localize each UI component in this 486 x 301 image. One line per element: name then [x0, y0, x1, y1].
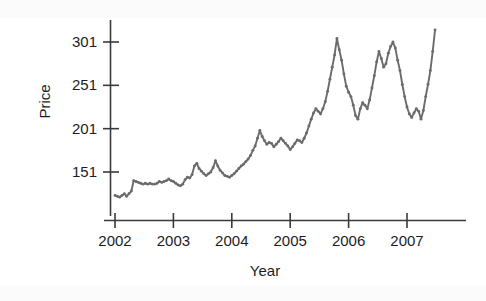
data-point: [371, 86, 374, 89]
data-point: [342, 73, 345, 76]
data-point: [338, 48, 341, 51]
data-point: [179, 184, 182, 187]
data-point: [172, 180, 175, 183]
data-point: [382, 66, 385, 69]
data-point: [200, 170, 203, 173]
data-point: [321, 107, 324, 110]
data-point: [165, 179, 168, 182]
x-tick-label: 2005: [268, 232, 312, 249]
data-point: [247, 158, 250, 161]
data-point: [415, 107, 418, 110]
data-point: [387, 52, 390, 55]
data-point: [249, 154, 252, 157]
data-point: [193, 164, 196, 167]
data-point: [434, 28, 437, 31]
price-markers: [114, 28, 437, 198]
data-point: [118, 196, 121, 199]
data-point: [324, 100, 327, 103]
data-point: [181, 183, 184, 186]
data-point: [314, 107, 317, 110]
data-point: [195, 162, 198, 165]
data-point: [385, 62, 388, 65]
data-point: [364, 104, 367, 107]
data-point: [347, 91, 350, 94]
y-tick-label: 251: [57, 76, 97, 93]
data-point: [420, 118, 423, 121]
data-point: [293, 142, 296, 145]
data-point: [254, 145, 257, 148]
data-point: [303, 137, 306, 140]
data-point: [128, 192, 131, 195]
data-point: [174, 182, 177, 185]
data-point: [233, 172, 236, 175]
data-point: [352, 104, 355, 107]
data-point: [389, 45, 392, 48]
data-point: [328, 78, 331, 81]
data-point: [219, 169, 222, 172]
data-point: [396, 59, 399, 62]
data-point: [399, 69, 402, 72]
data-point: [366, 107, 369, 110]
x-tick-label: 2007: [385, 232, 429, 249]
data-point: [373, 74, 376, 77]
data-point: [417, 110, 420, 113]
data-point: [335, 37, 338, 40]
data-point: [317, 110, 320, 113]
data-point: [340, 59, 343, 62]
data-point: [279, 137, 282, 140]
data-point: [312, 112, 315, 115]
axes: [103, 20, 466, 228]
data-point: [427, 83, 430, 86]
data-point: [406, 106, 409, 109]
data-point: [345, 85, 348, 88]
x-tick-label: 2003: [151, 232, 195, 249]
data-point: [121, 194, 124, 197]
data-point: [251, 149, 254, 152]
y-tick-label: 201: [57, 120, 97, 137]
data-point: [205, 174, 208, 177]
data-point: [130, 190, 133, 193]
data-point: [237, 167, 240, 170]
data-point: [242, 163, 245, 166]
data-point: [184, 178, 187, 181]
data-point: [235, 170, 238, 173]
data-point: [392, 41, 395, 44]
data-point: [424, 95, 427, 98]
data-point: [275, 143, 278, 146]
data-point: [359, 107, 362, 110]
chart-figure: Price Year 151201251301 2002200320042005…: [0, 0, 486, 301]
data-point: [378, 50, 381, 53]
data-point: [289, 148, 292, 151]
data-point: [240, 164, 243, 167]
data-point: [212, 166, 215, 169]
data-point: [361, 101, 364, 104]
data-point: [298, 139, 301, 142]
data-point: [167, 177, 170, 180]
data-point: [272, 145, 275, 148]
data-point: [333, 54, 336, 57]
data-point: [431, 50, 434, 53]
data-point: [191, 173, 194, 176]
data-point: [286, 145, 289, 148]
data-point: [125, 195, 128, 198]
data-point: [410, 116, 413, 119]
data-point: [188, 177, 191, 180]
data-point: [221, 171, 224, 174]
data-point: [422, 109, 425, 112]
price-line: [115, 30, 435, 197]
data-point: [413, 112, 416, 115]
data-point: [394, 47, 397, 50]
data-point: [244, 160, 247, 163]
y-axis-title: Price: [36, 54, 53, 150]
data-point: [123, 192, 126, 195]
data-point: [214, 159, 217, 162]
data-point: [401, 83, 404, 86]
data-point: [282, 139, 285, 142]
data-point: [307, 125, 310, 128]
data-point: [277, 140, 280, 143]
x-tick-label: 2006: [327, 232, 371, 249]
x-tick-label: 2002: [93, 232, 137, 249]
data-point: [207, 172, 210, 175]
data-point: [256, 137, 259, 140]
price-series: [114, 28, 437, 198]
